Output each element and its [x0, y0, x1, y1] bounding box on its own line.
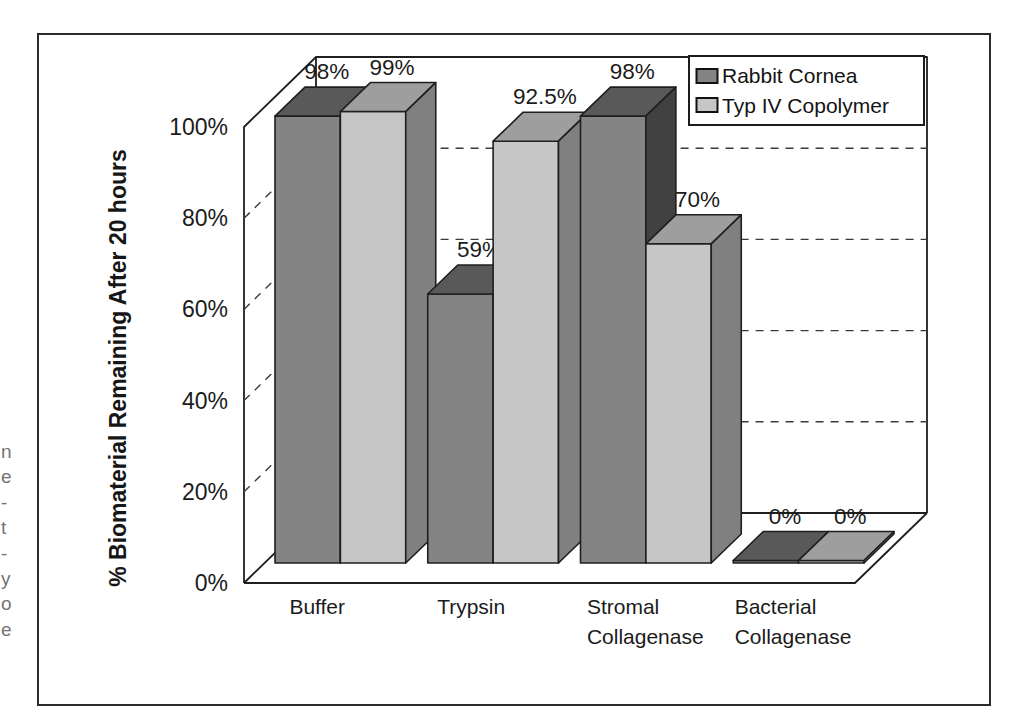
bar-typ-iv-copolymer-buffer [340, 83, 435, 563]
category-label-buffer: Buffer [289, 592, 345, 622]
y-tick-label-80%: 80% [182, 205, 228, 231]
legend-item-typ-iv-copolymer: Typ IV Copolymer [695, 95, 923, 116]
legend-label-rabbit-cornea: Rabbit Cornea [722, 65, 857, 86]
bar-front-face [646, 244, 711, 563]
bar-front-face [493, 141, 558, 563]
y-axis-title: % Biomaterial Remaining After 20 hours [105, 149, 132, 587]
bar-front-face [340, 112, 405, 563]
legend-swatch-typ-iv-copolymer [695, 96, 720, 114]
bar-value-label: 70% [675, 187, 720, 212]
bar-value-label: 98% [304, 59, 349, 84]
bar-value-label: 92.5% [513, 84, 577, 109]
bar-side-face [711, 215, 741, 563]
bar-value-label: 0% [834, 504, 867, 529]
bar-front-face [428, 294, 493, 563]
bar-front-face [581, 116, 646, 563]
legend-swatch-rabbit-cornea [695, 67, 720, 85]
bar-value-label: 99% [370, 55, 415, 80]
y-tick-label-20%: 20% [182, 479, 228, 505]
bar-value-label: 0% [769, 504, 802, 529]
legend-item-rabbit-cornea: Rabbit Cornea [695, 65, 923, 86]
y-tick-label-60%: 60% [182, 296, 228, 322]
category-label-stromal-collagenase: Stromal Collagenase [587, 592, 704, 652]
y-tick-label-100%: 100% [169, 114, 228, 140]
legend-label-typ-iv-copolymer: Typ IV Copolymer [722, 95, 889, 116]
chart-legend: Rabbit Cornea Typ IV Copolymer [688, 55, 925, 126]
bar-typ-iv-copolymer-trypsin [493, 112, 588, 563]
bar-front-face [275, 116, 340, 563]
bar-typ-iv-copolymer-stromal-collagenase [646, 215, 741, 563]
y-tick-label-0%: 0% [195, 570, 228, 596]
bar-value-label: 98% [610, 59, 655, 84]
scanned-page: ne-t-yoe 0%20%40%60%80%100%98%99%59%92.5… [0, 0, 1016, 727]
category-label-trypsin: Trypsin [437, 592, 505, 622]
y-tick-label-40%: 40% [182, 388, 228, 414]
category-label-bacterial-collagenase: Bacterial Collagenase [735, 592, 852, 652]
